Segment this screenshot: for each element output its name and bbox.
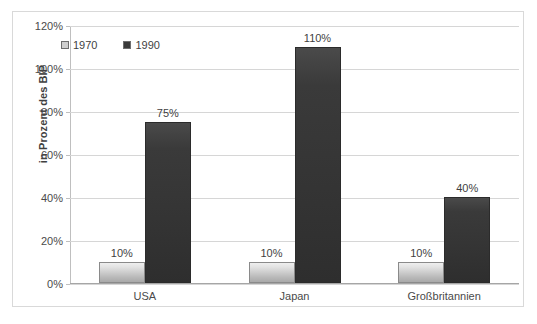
y-tick-label: 120% [35,20,63,32]
bar[interactable] [145,122,191,283]
bars-layer: 10%75%10%110%10%40% [70,26,519,284]
bar-value-label: 110% [295,32,341,44]
bar[interactable] [295,47,341,284]
bar-item[interactable]: 10% [249,262,295,284]
y-tick-label: 0% [47,278,63,290]
bar-value-label: 10% [99,247,145,259]
chart-frame: in Prozent des BIP 120%100%80%60%40%20%0… [12,11,524,307]
y-tick-label: 60% [41,149,63,161]
y-tick-mark [66,284,70,285]
bar-group: 10%75% [99,25,191,283]
bar-group: 10%110% [249,25,341,283]
bar[interactable] [99,262,145,284]
bar-value-label: 40% [444,182,490,194]
y-tick-label: 20% [41,235,63,247]
bar-value-label: 10% [249,247,295,259]
category-label: Japan [280,290,310,302]
legend-label: 1970 [73,39,97,51]
category-label: Großbritannien [407,290,480,302]
y-tick-label: 40% [41,192,63,204]
legend-swatch-icon [61,41,69,49]
bar-item[interactable]: 10% [398,262,444,284]
bar-value-label: 10% [398,247,444,259]
x-axis-category-labels: USAJapanGroßbritannien [70,290,519,310]
y-tick-label: 100% [35,63,63,75]
y-tick-label: 80% [41,106,63,118]
bar-item[interactable]: 40% [444,197,490,283]
category-label: USA [134,290,157,302]
bar-group: 10%40% [398,25,490,283]
legend-item: 1990 [123,39,159,51]
bar[interactable] [249,262,295,284]
plot-area: 120%100%80%60%40%20%0% 10%75%10%110%10%4… [70,26,519,284]
bar[interactable] [398,262,444,284]
legend-item: 1970 [61,39,97,51]
bar-item[interactable]: 75% [145,122,191,283]
bar-item[interactable]: 110% [295,47,341,284]
bar-value-label: 75% [145,107,191,119]
bar[interactable] [444,197,490,283]
gridline [70,284,519,285]
bar-item[interactable]: 10% [99,262,145,284]
chart-legend: 19701990 [61,39,160,51]
legend-swatch-icon [123,41,131,49]
legend-label: 1990 [135,39,159,51]
